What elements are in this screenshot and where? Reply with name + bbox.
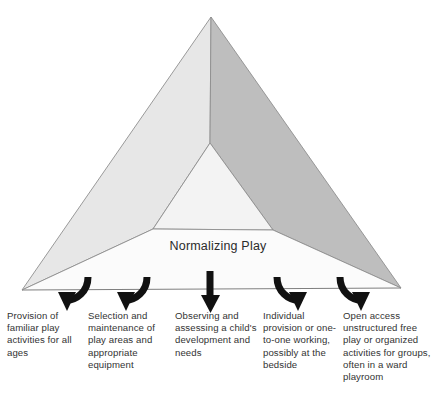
- caption-item: Observing and assessing a child's develo…: [175, 310, 260, 359]
- center-label: Normalizing Play: [0, 239, 436, 253]
- caption-row: Provision of familiar play activities fo…: [0, 310, 436, 405]
- caption-item: Open access unstructured free play or or…: [343, 310, 431, 383]
- caption-item: Individual provision or one-to-one worki…: [263, 310, 341, 371]
- pyramid-diagram: Normalizing Play Provision of familiar p…: [0, 0, 436, 407]
- caption-item: Provision of familiar play activities fo…: [7, 310, 85, 359]
- caption-item: Selection and maintenance of play areas …: [88, 310, 170, 371]
